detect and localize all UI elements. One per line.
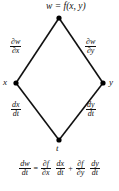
- node-dot-y: [100, 80, 105, 85]
- edge-label-dy-dt-denominator: dt: [86, 109, 96, 118]
- edge-label-dx-dt-numerator: dx: [11, 101, 21, 109]
- formula-term1-fraction2-numerator: dx: [56, 160, 66, 168]
- node-label-w: w = f(x, y): [46, 2, 86, 12]
- edge-w-to-x: [16, 18, 59, 83]
- formula-lhs-fraction: dw dt: [19, 160, 30, 178]
- formula-term2-fraction2-denominator: dt: [90, 168, 100, 177]
- formula-term2-fraction1: ∂f ∂y: [76, 160, 86, 178]
- node-label-x: x: [3, 78, 7, 87]
- edge-label-dw-dx-denominator: ∂x: [10, 46, 21, 55]
- edge-x-to-t: [16, 83, 59, 140]
- edge-label-dy-dt-numerator: dy: [86, 101, 96, 109]
- formula-plus-sign: +: [67, 164, 74, 173]
- node-label-t: t: [56, 144, 59, 153]
- formula-term1-fraction1-numerator: ∂f: [41, 160, 51, 168]
- formula-term2-fraction2-numerator: dy: [90, 160, 100, 168]
- formula-equals-sign: =: [33, 164, 40, 173]
- edge-label-dw-dy: ∂w ∂y: [85, 38, 96, 56]
- formula-term2-fraction2: dy dt: [90, 160, 100, 178]
- formula-lhs-denominator: dt: [19, 168, 30, 177]
- edge-label-dw-dy-numerator: ∂w: [85, 38, 96, 46]
- formula-term2-fraction1-denominator: ∂y: [76, 168, 86, 177]
- edge-w-to-y: [59, 18, 103, 83]
- node-dot-x: [13, 80, 18, 85]
- edge-label-dw-dy-denominator: ∂y: [85, 46, 96, 55]
- node-dot-w: [56, 15, 61, 20]
- chain-rule-formula: dw dt = ∂f ∂x dx dt + ∂f ∂y dy dt: [0, 160, 119, 178]
- formula-term1-fraction2: dx dt: [56, 160, 66, 178]
- chain-rule-diagram-figure: w = f(x, y) x y t ∂w ∂x ∂w ∂y dx dt dy d…: [0, 0, 119, 191]
- edge-y-to-t: [59, 83, 103, 140]
- formula-term1-fraction1-denominator: ∂x: [41, 168, 51, 177]
- edge-label-dy-dt: dy dt: [86, 101, 96, 119]
- node-label-y: y: [109, 78, 113, 87]
- formula-term2-fraction1-numerator: ∂f: [76, 160, 86, 168]
- formula-lhs-numerator: dw: [19, 160, 30, 168]
- edge-label-dx-dt-denominator: dt: [11, 109, 21, 118]
- formula-term1-fraction1: ∂f ∂x: [41, 160, 51, 178]
- node-dot-t: [56, 137, 61, 142]
- edge-label-dx-dt: dx dt: [11, 101, 21, 119]
- edge-label-dw-dx-numerator: ∂w: [10, 38, 21, 46]
- formula-term1-fraction2-denominator: dt: [56, 168, 66, 177]
- edge-label-dw-dx: ∂w ∂x: [10, 38, 21, 56]
